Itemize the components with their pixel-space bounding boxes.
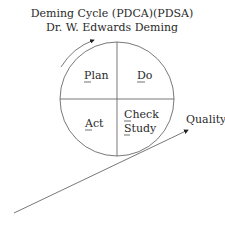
quadrant-check-study: Check Study [124,108,159,135]
act-label: Act [84,117,104,130]
deming-cycle-diagram: Deming Cycle (PDCA)(PDSA) Dr. W. Edwards… [0,0,225,228]
quadrant-do: Do [137,69,153,82]
quality-arrow-icon [14,130,188,213]
quadrant-plan: Plan [84,69,109,82]
do-label: Do [137,69,153,82]
plan-label: Plan [84,69,109,82]
quality-label: Quality [186,113,225,126]
diagram-title: Deming Cycle (PDCA)(PDSA) [31,7,194,20]
check-label: Check [124,108,159,121]
study-label: Study [124,122,157,135]
diagram-subtitle: Dr. W. Edwards Deming [46,21,178,34]
quadrant-act: Act [84,117,104,130]
rotation-arrow-icon [61,40,94,67]
